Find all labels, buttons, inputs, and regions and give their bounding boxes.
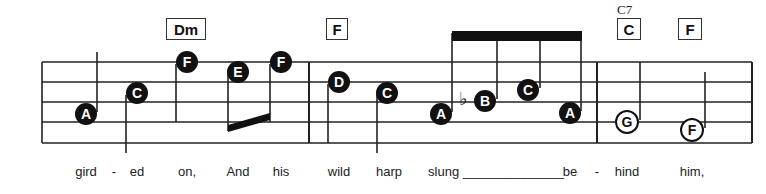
flat-sign: ♭ xyxy=(459,88,468,109)
note-e: E xyxy=(227,61,249,83)
chord-f-2: F xyxy=(678,18,702,40)
lyric: his xyxy=(273,164,290,179)
note-c: C xyxy=(126,82,148,104)
note-a: A xyxy=(559,102,581,124)
note-g-half: G xyxy=(615,110,639,134)
note-a: A xyxy=(430,103,452,125)
chord-c: C xyxy=(617,18,641,40)
note-c: C xyxy=(376,82,398,104)
chord-dm: Dm xyxy=(166,18,206,40)
lyric: And xyxy=(226,164,249,179)
note-d: D xyxy=(328,71,350,93)
note-b-flat: B xyxy=(474,90,496,112)
lyric: slung ______________ xyxy=(428,164,564,179)
note-a: A xyxy=(75,103,97,125)
lyric: harp xyxy=(376,164,402,179)
lyric: him, xyxy=(680,164,705,179)
lyric: gird xyxy=(75,164,97,179)
lyric: be xyxy=(563,164,577,179)
lyric: hind xyxy=(615,164,640,179)
note-f-half: F xyxy=(680,118,704,142)
note-f: F xyxy=(176,51,198,73)
chord-c7-label: C7 xyxy=(617,2,632,18)
lyric: on, xyxy=(178,164,196,179)
note-f: F xyxy=(270,51,292,73)
music-score: Dm F C7 C F A C F E F D C A ♭ B C A G F … xyxy=(0,0,766,194)
lyric: - xyxy=(112,164,116,179)
lyric: wild xyxy=(328,164,350,179)
chord-f: F xyxy=(326,18,348,40)
note-c: C xyxy=(517,79,539,101)
lyric: - xyxy=(595,164,599,179)
lyric: ed xyxy=(130,164,144,179)
